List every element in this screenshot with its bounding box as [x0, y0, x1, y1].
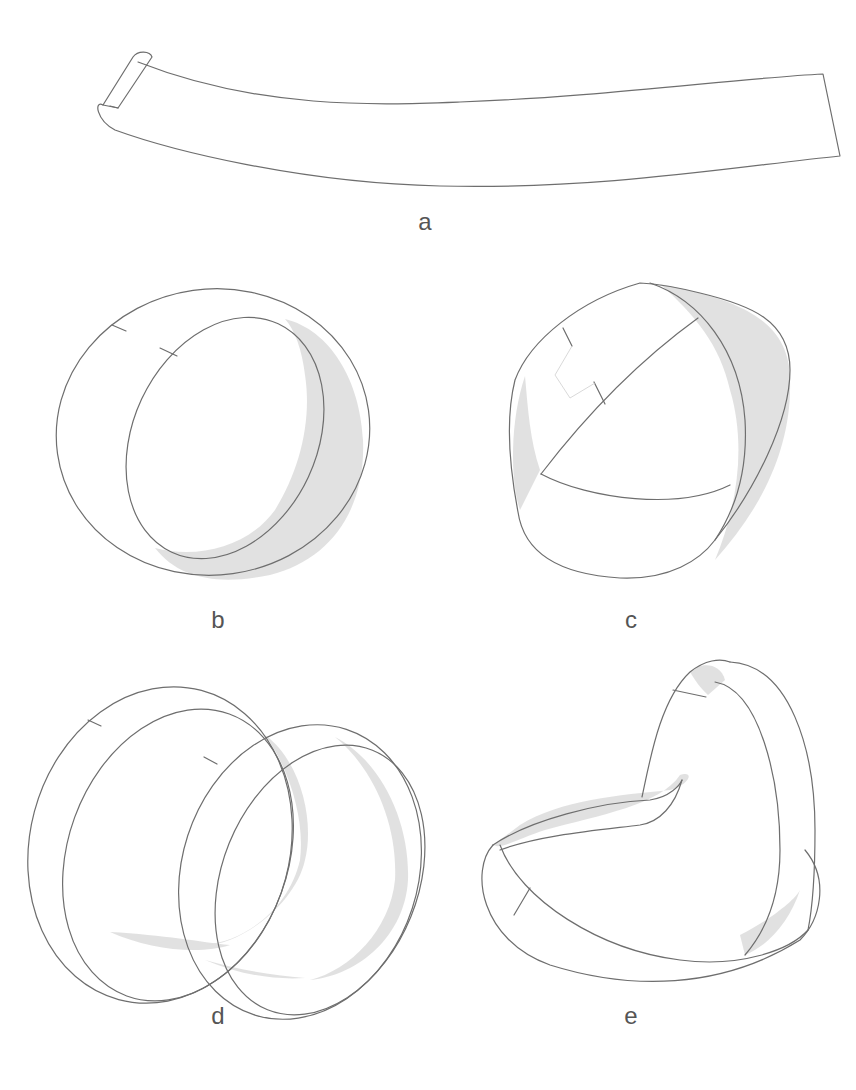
- label-c: c: [625, 608, 637, 632]
- label-a: a: [418, 210, 431, 234]
- panel-d-double-loop: [0, 657, 463, 1051]
- panel-e-twisted-band: [482, 660, 820, 981]
- panel-b-cylinder: [38, 269, 389, 596]
- label-b: b: [211, 608, 224, 632]
- panel-a-strip: [98, 52, 840, 186]
- label-d: d: [211, 1004, 224, 1028]
- figure-canvas: [0, 0, 856, 1090]
- panel-c-mobius: [509, 283, 790, 578]
- label-e: e: [624, 1004, 637, 1028]
